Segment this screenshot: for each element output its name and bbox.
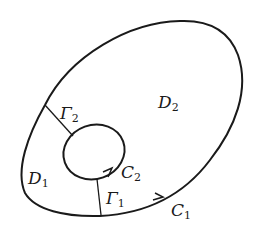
- label-gamma2: Γ2: [60, 105, 79, 124]
- label-d1-sub: 1: [42, 177, 49, 190]
- label-c1: C1: [171, 202, 191, 221]
- label-gamma1-sub: 1: [118, 197, 125, 210]
- label-d1-main: D: [28, 168, 42, 188]
- label-d2-main: D: [158, 92, 172, 112]
- label-c1-sub: 1: [184, 209, 191, 222]
- label-d2-sub: 2: [172, 101, 179, 114]
- label-c2: C2: [121, 164, 141, 183]
- cut-gamma1: [97, 179, 101, 215]
- label-c1-main: C: [171, 200, 184, 220]
- label-d2: D2: [158, 94, 179, 113]
- region-diagram: [0, 0, 260, 246]
- label-c2-sub: 2: [134, 171, 141, 184]
- label-gamma1: Γ1: [106, 190, 125, 209]
- outer-curve-c1: [22, 21, 243, 216]
- label-c2-main: C: [121, 162, 134, 182]
- label-gamma1-main: Γ: [106, 188, 118, 208]
- arrow-icon-c1: [153, 193, 163, 200]
- label-gamma2-sub: 2: [72, 112, 79, 125]
- label-d1: D1: [28, 170, 49, 189]
- label-gamma2-main: Γ: [60, 103, 72, 123]
